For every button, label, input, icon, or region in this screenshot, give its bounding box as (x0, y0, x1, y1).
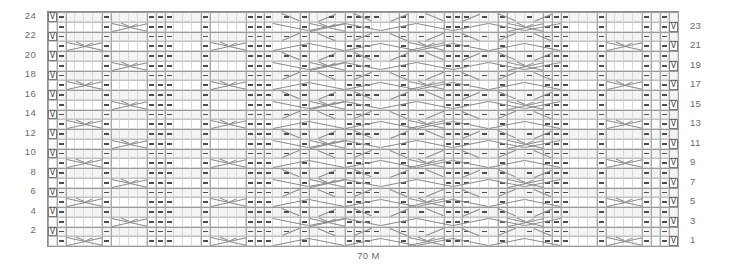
stitch-cell[interactable] (669, 100, 678, 110)
stitch-cell[interactable] (129, 51, 138, 61)
stitch-cell[interactable] (228, 217, 237, 227)
stitch-cell[interactable] (597, 51, 606, 61)
stitch-cell[interactable] (48, 217, 57, 227)
stitch-cell[interactable] (93, 227, 102, 237)
stitch-cell[interactable] (48, 207, 57, 217)
stitch-cell[interactable] (174, 217, 183, 227)
stitch-cell[interactable] (165, 236, 174, 246)
stitch-cell[interactable] (264, 119, 273, 129)
stitch-cell[interactable] (93, 12, 102, 22)
stitch-cell[interactable] (48, 236, 57, 246)
stitch-cell[interactable] (147, 139, 156, 149)
stitch-cell[interactable] (264, 80, 273, 90)
stitch-cell[interactable] (642, 12, 651, 22)
stitch-cell[interactable] (174, 119, 183, 129)
stitch-cell[interactable] (597, 158, 606, 168)
stitch-cell[interactable] (156, 227, 165, 237)
stitch-cell[interactable] (210, 129, 219, 139)
stitch-cell[interactable] (588, 51, 597, 61)
stitch-cell[interactable] (174, 129, 183, 139)
stitch-cell[interactable] (165, 129, 174, 139)
stitch-cell[interactable] (561, 100, 570, 110)
stitch-cell[interactable] (156, 80, 165, 90)
stitch-cell[interactable] (147, 90, 156, 100)
stitch-cell[interactable] (264, 100, 273, 110)
stitch-cell[interactable] (246, 41, 255, 51)
stitch-cell[interactable] (606, 207, 615, 217)
stitch-cell[interactable] (156, 12, 165, 22)
stitch-cell[interactable] (210, 12, 219, 22)
stitch-cell[interactable] (192, 61, 201, 71)
stitch-cell[interactable] (264, 51, 273, 61)
stitch-cell[interactable] (615, 188, 624, 198)
stitch-cell[interactable] (129, 188, 138, 198)
stitch-cell[interactable] (516, 188, 525, 198)
stitch-cell[interactable] (624, 100, 633, 110)
stitch-cell[interactable] (372, 188, 381, 198)
stitch-cell[interactable] (147, 61, 156, 71)
stitch-cell[interactable] (66, 129, 75, 139)
stitch-cell[interactable] (93, 71, 102, 81)
stitch-cell[interactable] (147, 236, 156, 246)
stitch-cell[interactable] (48, 110, 57, 120)
stitch-cell[interactable] (75, 188, 84, 198)
stitch-cell[interactable] (633, 217, 642, 227)
stitch-cell[interactable] (408, 129, 417, 139)
stitch-cell[interactable] (264, 41, 273, 51)
stitch-cell[interactable] (111, 32, 120, 42)
stitch-cell[interactable] (102, 51, 111, 61)
stitch-cell[interactable] (102, 100, 111, 110)
stitch-cell[interactable] (273, 227, 282, 237)
stitch-cell[interactable] (66, 207, 75, 217)
stitch-cell[interactable] (246, 149, 255, 159)
stitch-cell[interactable] (210, 217, 219, 227)
stitch-cell[interactable] (615, 100, 624, 110)
stitch-cell[interactable] (57, 100, 66, 110)
stitch-cell[interactable] (444, 90, 453, 100)
stitch-cell[interactable] (201, 41, 210, 51)
stitch-cell[interactable] (183, 129, 192, 139)
stitch-cell[interactable] (606, 149, 615, 159)
stitch-cell[interactable] (345, 32, 354, 42)
stitch-cell[interactable] (201, 139, 210, 149)
stitch-cell[interactable] (525, 51, 534, 61)
stitch-cell[interactable] (408, 188, 417, 198)
stitch-cell[interactable] (345, 110, 354, 120)
stitch-cell[interactable] (129, 227, 138, 237)
stitch-cell[interactable] (255, 168, 264, 178)
stitch-cell[interactable] (111, 12, 120, 22)
stitch-cell[interactable] (633, 227, 642, 237)
stitch-cell[interactable] (309, 129, 318, 139)
stitch-cell[interactable] (210, 227, 219, 237)
stitch-cell[interactable] (660, 227, 669, 237)
stitch-cell[interactable] (228, 100, 237, 110)
stitch-cell[interactable] (651, 139, 660, 149)
stitch-cell[interactable] (408, 71, 417, 81)
stitch-cell[interactable] (525, 12, 534, 22)
stitch-cell[interactable] (147, 80, 156, 90)
stitch-cell[interactable] (597, 22, 606, 32)
stitch-cell[interactable] (489, 110, 498, 120)
stitch-cell[interactable] (552, 149, 561, 159)
stitch-cell[interactable] (102, 178, 111, 188)
stitch-cell[interactable] (417, 227, 426, 237)
stitch-cell[interactable] (138, 110, 147, 120)
stitch-cell[interactable] (561, 158, 570, 168)
stitch-cell[interactable] (120, 119, 129, 129)
stitch-cell[interactable] (660, 61, 669, 71)
stitch-cell[interactable] (102, 149, 111, 159)
stitch-cell[interactable] (228, 178, 237, 188)
stitch-cell[interactable] (444, 32, 453, 42)
stitch-cell[interactable] (66, 217, 75, 227)
stitch-cell[interactable] (336, 51, 345, 61)
stitch-cell[interactable] (102, 90, 111, 100)
stitch-cell[interactable] (237, 110, 246, 120)
stitch-cell[interactable] (102, 188, 111, 198)
stitch-cell[interactable] (75, 100, 84, 110)
stitch-cell[interactable] (111, 236, 120, 246)
stitch-cell[interactable] (372, 71, 381, 81)
stitch-cell[interactable] (300, 149, 309, 159)
stitch-cell[interactable] (192, 158, 201, 168)
stitch-cell[interactable] (516, 207, 525, 217)
stitch-cell[interactable] (408, 90, 417, 100)
